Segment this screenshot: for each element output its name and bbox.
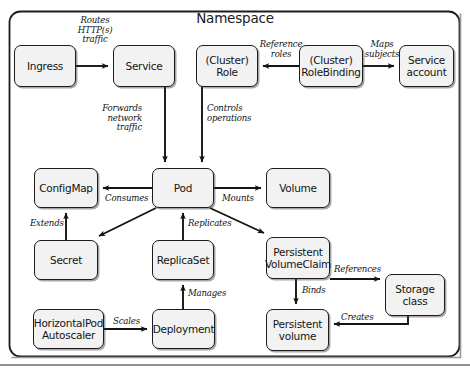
edge-label-ingress-service: RoutesHTTP(s)traffic bbox=[78, 16, 113, 45]
node-label-rolebinding: (Cluster)RoleBinding bbox=[299, 54, 363, 78]
edge-label-deployment-replicaset: Manages bbox=[188, 289, 226, 299]
node-replicaset[interactable]: ReplicaSet bbox=[152, 240, 214, 280]
node-pod[interactable]: Pod bbox=[152, 168, 214, 208]
edge-label-rolebinding-sa: Mapssubjects bbox=[365, 40, 399, 59]
edge-label-secret-configmap: Extends bbox=[30, 219, 64, 229]
edge-label-replicaset-pod: Replicates bbox=[188, 219, 231, 229]
node-storageclass[interactable]: Storageclass bbox=[385, 274, 445, 316]
edge-label-pvc-pv: Binds bbox=[302, 286, 326, 296]
kubernetes-namespace-diagram: Namespace IngressService(Cluster)Role(Cl… bbox=[0, 0, 470, 371]
node-rolebinding[interactable]: (Cluster)RoleBinding bbox=[299, 45, 363, 87]
node-pv[interactable]: Persistentvolume bbox=[266, 309, 329, 351]
namespace-title: Namespace bbox=[0, 10, 470, 26]
node-label-pod: Pod bbox=[172, 182, 194, 194]
page-bottom-rule bbox=[0, 364, 470, 366]
node-label-role: (Cluster)Role bbox=[203, 54, 250, 78]
node-ingress[interactable]: Ingress bbox=[14, 45, 76, 87]
edge-label-pod-volume: Mounts bbox=[222, 194, 254, 204]
edge-label-hpa-deployment: Scales bbox=[113, 317, 140, 327]
node-secret[interactable]: Secret bbox=[34, 240, 98, 280]
node-label-replicaset: ReplicaSet bbox=[155, 254, 212, 266]
edge-label-role-pod: Controlsoperations bbox=[207, 104, 251, 123]
node-role[interactable]: (Cluster)Role bbox=[196, 45, 258, 87]
edge-label-rolebinding-role: Referenceroles bbox=[260, 40, 303, 59]
node-label-secret: Secret bbox=[48, 254, 84, 266]
node-label-service: Service bbox=[123, 60, 164, 72]
node-pvc[interactable]: PersistentVolumeClaim bbox=[266, 237, 330, 279]
node-label-pv: Persistentvolume bbox=[271, 318, 324, 342]
node-volume[interactable]: Volume bbox=[266, 168, 330, 208]
edge-label-service-pod: Forwardsnetworktraffic bbox=[102, 104, 142, 133]
node-label-ingress: Ingress bbox=[25, 60, 65, 72]
edge-label-pvc-storageclass: References bbox=[334, 265, 381, 275]
node-label-serviceaccount: Serviceaccount bbox=[404, 54, 448, 78]
node-label-volume: Volume bbox=[277, 182, 319, 194]
node-label-pvc: PersistentVolumeClaim bbox=[263, 246, 333, 270]
node-hpa[interactable]: HorizontalPodAutoscaler bbox=[33, 309, 104, 349]
edge-pod-secret bbox=[99, 208, 156, 236]
edge-label-storageclass-pv: Creates bbox=[341, 313, 373, 323]
node-serviceaccount[interactable]: Serviceaccount bbox=[399, 45, 454, 87]
node-label-deployment: Deployment bbox=[151, 323, 217, 335]
node-deployment[interactable]: Deployment bbox=[152, 309, 215, 349]
node-configmap[interactable]: ConfigMap bbox=[34, 168, 98, 208]
edge-label-pod-configmap: Consumes bbox=[105, 194, 148, 204]
node-service[interactable]: Service bbox=[113, 45, 175, 87]
node-label-storageclass: Storageclass bbox=[393, 283, 436, 307]
node-label-configmap: ConfigMap bbox=[37, 182, 95, 194]
node-label-hpa: HorizontalPodAutoscaler bbox=[32, 317, 105, 341]
